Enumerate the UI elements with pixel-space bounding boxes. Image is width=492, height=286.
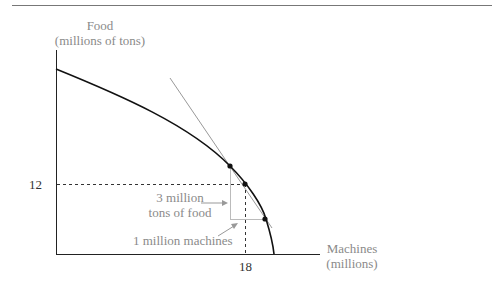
machines-arrow [218,226,234,236]
tangent-line-upper [170,78,227,162]
point-upper [227,163,232,168]
machines-arrow-head [231,223,238,229]
food-arrow-head [222,200,228,206]
point-lower [262,216,267,221]
point-18-12 [242,181,247,186]
chart-plot [0,0,492,286]
ppf-curve [56,69,274,254]
